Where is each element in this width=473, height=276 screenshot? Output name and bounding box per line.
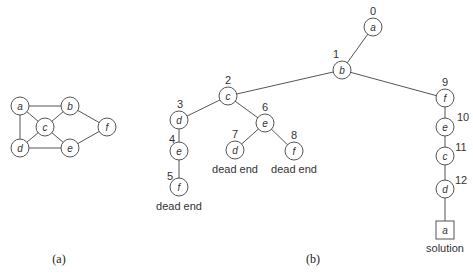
visit-order-number: 1 [333,48,339,60]
tree-b-edges [179,27,445,221]
tree-node-6: e6 [256,101,274,132]
tree-node-8: f8 [285,129,303,160]
visit-order-number: 10 [457,111,469,123]
node-label: d [176,115,182,126]
visit-order-number: 12 [455,174,467,186]
visit-order-number: 7 [232,128,238,140]
node-f: f [98,118,116,136]
node-label: d [17,143,23,154]
dead-end-label: dead end [271,163,317,175]
node-d: d [11,139,29,157]
tree-node-1: b1 [333,48,351,79]
node-label: a [17,101,23,112]
node-a: a [11,97,29,115]
tree-node-4: e4 [169,133,188,160]
visit-order-number: 0 [370,5,376,17]
node-label: e [262,118,268,129]
node-c: c [36,118,54,136]
tree-node-3: d3 [170,98,188,129]
node-label: e [67,143,73,154]
tree-node-11: c11 [436,141,467,165]
node-label: d [232,145,238,156]
visit-order-number: 8 [291,129,297,141]
solution-label: solution [426,242,464,254]
tree-node-12: d12 [436,174,467,198]
visit-order-number: 6 [262,101,268,113]
tree-node-5: f5 [167,170,188,196]
node-label: e [176,146,182,157]
visit-order-number: 5 [167,170,173,182]
graph-diagram: abcdef a0b1c2d3e4f5e6d7f8f9e10c11d12 aso… [0,0,473,276]
tree-node-2: c2 [219,74,237,105]
graph-a-nodes: abcdef [11,97,116,157]
node-label: e [442,122,448,133]
solution-node: asolution [426,221,464,254]
tree-edge [228,70,342,96]
dead-end-label: dead end [212,163,258,175]
visit-order-number: 3 [177,98,183,110]
tree-edge [342,70,445,98]
tree-node-9: f9 [436,76,454,107]
node-label: a [370,22,376,33]
visit-order-number: 9 [442,76,448,88]
node-label: b [339,65,345,76]
visit-order-number: 4 [169,133,175,145]
tree-node-0: a0 [364,5,382,36]
visit-order-number: 11 [455,141,466,153]
tree-node-10: e10 [436,111,469,136]
node-e: e [61,139,79,157]
tree-b-annotations: asolutiondead enddead enddead end [156,163,464,254]
node-label: b [67,101,73,112]
node-label: a [442,225,448,236]
caption-a: (a) [52,252,65,266]
node-label: c [226,91,231,102]
node-label: c [443,151,448,162]
node-b: b [61,97,79,115]
tree-node-7: d7 [226,128,244,159]
node-label: d [442,184,448,195]
caption-b: (b) [306,252,320,266]
node-label: c [43,122,48,133]
visit-order-number: 2 [225,74,231,86]
dead-end-label: dead end [156,200,202,212]
